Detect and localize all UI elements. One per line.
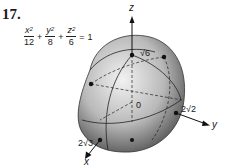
z-axis-label: z xyxy=(129,2,134,13)
ellipsoid-figure xyxy=(0,0,226,167)
x-intercept-label: 2√3 xyxy=(78,138,93,148)
z-intercept-label: √6 xyxy=(140,48,150,58)
y-axis xyxy=(176,113,210,126)
x-axis-label: x xyxy=(84,156,89,167)
origin-label: 0 xyxy=(136,100,141,110)
ellipsoid-surface xyxy=(78,35,184,152)
y-axis-label: y xyxy=(212,119,217,130)
y-intercept-label: 2√2 xyxy=(181,104,196,114)
